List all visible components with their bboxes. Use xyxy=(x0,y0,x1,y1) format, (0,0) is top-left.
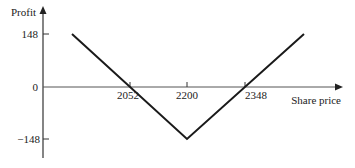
x-axis-arrow-icon xyxy=(335,84,343,91)
y-tick-label-0: 0 xyxy=(33,81,39,93)
y-axis-arrow-icon xyxy=(40,6,47,14)
x-tick-label-2052: 2052 xyxy=(117,89,139,101)
x-tick-label-2348: 2348 xyxy=(245,89,268,101)
y-axis-label: Profit xyxy=(11,6,36,18)
x-tick-label-2200: 2200 xyxy=(176,89,199,101)
x-axis-label: Share price xyxy=(291,94,341,106)
payoff-chart: Profit 148 0 −148 2052 2200 2348 Share p… xyxy=(0,0,355,168)
y-tick-label-neg148: −148 xyxy=(17,133,40,145)
y-tick-label-148: 148 xyxy=(22,28,39,40)
